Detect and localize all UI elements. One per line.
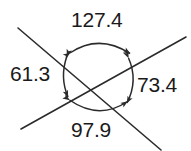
arc-top-angle-marker	[70, 43, 130, 53]
geometry-figure: 127.4 61.3 73.4 97.9	[0, 0, 191, 151]
angle-label-right: 73.4	[137, 74, 177, 95]
angle-arcs	[63, 43, 133, 110]
arc-left-angle-marker	[63, 56, 68, 97]
arc-bottom-angle-marker	[70, 100, 128, 111]
angle-label-bottom: 97.9	[71, 119, 111, 140]
angle-label-left: 61.3	[10, 63, 50, 84]
arc-right-angle-marker	[127, 58, 133, 103]
angle-label-top: 127.4	[71, 9, 123, 30]
